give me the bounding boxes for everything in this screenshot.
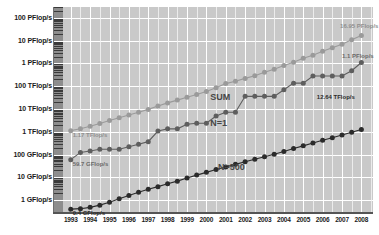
x-axis-tick-label: 2008 [355, 216, 369, 223]
series-data-point [359, 60, 364, 65]
series-data-point [155, 184, 160, 189]
x-axis-tick-label: 1999 [180, 216, 194, 223]
series-data-point [243, 94, 248, 99]
y-axis-minor-tick [54, 164, 63, 165]
y-axis-minor-tick [54, 134, 63, 135]
x-axis-tick-label: 1995 [103, 216, 117, 223]
series-data-point [262, 154, 267, 159]
y-axis-minor-tick [54, 50, 63, 51]
series-data-point [194, 121, 199, 126]
series-data-point [252, 157, 257, 162]
series-data-point [349, 37, 354, 42]
series-data-point [88, 124, 93, 129]
x-axis-tick-label: 2003 [258, 216, 272, 223]
y-axis-minor-tick [54, 20, 63, 21]
series-data-point [165, 126, 170, 131]
top500-performance-chart: 1 GFlop/s10 GFlop/s100 GFlop/s1 TFlop/s1… [0, 0, 379, 235]
y-axis-minor-tick [54, 7, 63, 8]
y-axis-minor-tick [54, 156, 63, 157]
y-axis-minor-tick [54, 157, 63, 158]
y-axis-minor-tick [54, 144, 63, 145]
y-axis-minor-tick [54, 70, 63, 71]
series-data-point [214, 85, 219, 90]
series-data-point [330, 45, 335, 50]
series-data-point [97, 203, 102, 208]
series-data-point [107, 118, 112, 123]
y-axis-minor-tick [54, 98, 63, 99]
y-axis-tick-label: 10 TFlop/s [18, 105, 52, 112]
y-axis-minor-tick [54, 166, 63, 167]
n500-start-value: 0.4 GFlop/s [73, 210, 105, 216]
series-data-point [155, 129, 160, 134]
series-data-point [223, 110, 228, 115]
y-axis-minor-tick [54, 137, 63, 138]
x-axis-tick-label: 1997 [141, 216, 155, 223]
y-axis-minor-tick [54, 139, 63, 140]
sum-start-value: 1.17 TFlop/s [73, 132, 108, 138]
y-axis-tick-label: 10 PFlop/s [18, 37, 52, 44]
series-data-point [310, 53, 315, 58]
x-axis-tick-label: 2004 [277, 216, 291, 223]
n1-start-value: 59.7 GFlop/s [73, 161, 109, 167]
y-axis-tick-label: 1 TFlop/s [22, 128, 52, 135]
series-data-point [136, 190, 141, 195]
series-data-point [165, 181, 170, 186]
series-data-point [185, 122, 190, 127]
y-axis-minor-tick [54, 68, 63, 69]
y-axis-minor-tick [54, 72, 63, 73]
series-data-point [320, 74, 325, 79]
y-axis-minor-tick [54, 30, 63, 31]
series-data-point [291, 81, 296, 86]
y-axis-minor-tick [54, 11, 63, 12]
y-axis-minor-tick [54, 125, 63, 126]
series-data-point [233, 110, 238, 115]
y-axis-major-tick [54, 41, 63, 42]
y-axis-minor-tick [54, 42, 63, 43]
series-data-point [136, 110, 141, 115]
n1-series-label: N=1 [210, 118, 227, 128]
n500-end-value: 12.64 TFlop/s [317, 94, 355, 100]
y-axis-minor-tick [54, 189, 63, 190]
y-axis-minor-tick [54, 23, 63, 24]
series-data-point [281, 149, 286, 154]
y-axis-minor-tick [54, 67, 63, 68]
y-axis-tick-label: 100 TFlop/s [15, 82, 52, 89]
y-axis-minor-tick [54, 160, 63, 161]
series-data-point [281, 63, 286, 68]
series-data-point [126, 144, 131, 149]
series-data-point [117, 147, 122, 152]
y-axis-minor-tick [54, 34, 63, 35]
y-axis-minor-tick [54, 88, 63, 89]
series-data-point [194, 92, 199, 97]
series-data-point [301, 81, 306, 86]
series-data-point [185, 176, 190, 181]
series-data-point [320, 138, 325, 143]
y-axis-minor-tick [54, 53, 63, 54]
x-axis-tick-label: 1998 [161, 216, 175, 223]
y-axis-minor-tick [54, 180, 63, 181]
series-data-point [155, 104, 160, 109]
series-line [71, 62, 362, 159]
y-axis-minor-tick [54, 110, 63, 111]
y-axis-minor-tick [54, 182, 63, 183]
y-axis-minor-tick [54, 75, 63, 76]
series-data-point [310, 74, 315, 79]
n1-end-value: 1.1 PFlop/s [342, 53, 374, 59]
series-data-point [243, 76, 248, 81]
series-data-point [320, 49, 325, 54]
y-axis-tick-label: 100 PFlop/s [14, 14, 52, 21]
series-data-point [117, 196, 122, 201]
y-axis-minor-tick [54, 116, 63, 117]
series-data-point [252, 94, 257, 99]
series-data-point [136, 142, 141, 147]
y-axis-minor-tick [54, 118, 63, 119]
series-data-point [97, 121, 102, 126]
x-axis-tick-label: 1993 [64, 216, 78, 223]
y-axis-minor-tick [54, 121, 63, 122]
y-axis-minor-tick [54, 178, 63, 179]
y-axis-minor-tick [54, 93, 63, 94]
y-axis-major-tick [54, 18, 63, 19]
y-axis-minor-tick [54, 170, 63, 171]
series-data-point [262, 94, 267, 99]
series-layer [63, 7, 373, 212]
